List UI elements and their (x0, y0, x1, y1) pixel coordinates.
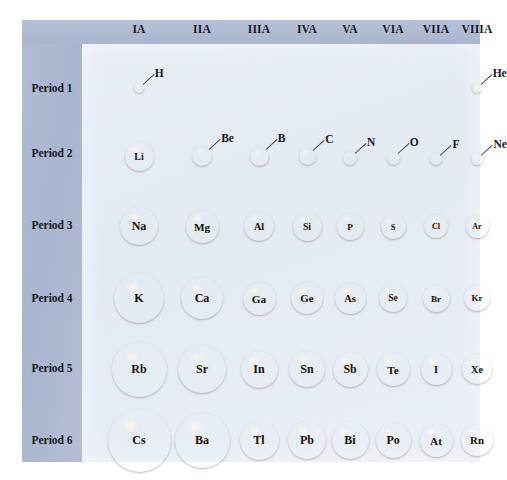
symbol-o: O (410, 136, 419, 148)
atom-sb: Sb (333, 352, 368, 387)
symbol-ne: Ne (493, 138, 506, 150)
symbol-mg: Mg (194, 220, 210, 232)
symbol-ga: Ga (252, 292, 266, 304)
symbol-as: As (344, 293, 356, 304)
symbol-sr: Sr (196, 362, 208, 377)
atom-xe: Xe (462, 354, 492, 384)
symbol-te: Te (387, 363, 398, 375)
atom-at: At (420, 424, 453, 457)
symbol-tl: Tl (253, 433, 264, 448)
atom-sn: Sn (289, 351, 325, 387)
atom-cl: Cl (424, 214, 448, 238)
atom-i: I (421, 354, 452, 385)
symbol-se: Se (388, 293, 398, 303)
symbol-cl: Cl (432, 222, 440, 231)
symbol-s: S (391, 221, 396, 231)
atom-p: P (337, 213, 364, 240)
group-header-via: VIA (382, 23, 404, 35)
atom-rn: Rn (461, 424, 493, 456)
period-label-2: Period 2 (31, 147, 72, 159)
atom-sr: Sr (178, 345, 226, 393)
period-label-1: Period 1 (31, 82, 72, 94)
symbol-ge: Ge (300, 292, 313, 304)
atom-ar: Ar (466, 215, 489, 238)
symbol-sb: Sb (343, 362, 356, 377)
symbol-ca: Ca (195, 291, 210, 306)
symbol-be: Be (221, 132, 234, 144)
symbol-br: Br (431, 293, 441, 303)
diagram-panel (82, 44, 480, 462)
symbol-pb: Pb (300, 433, 314, 448)
group-header-ia: IA (132, 23, 145, 35)
leader-line-he (480, 75, 492, 86)
atom-mg: Mg (186, 210, 219, 243)
atom-kr: Kr (464, 285, 490, 311)
symbol-p: P (347, 221, 353, 231)
atom-as: As (335, 283, 366, 314)
group-header-viiia: VIIIA (461, 23, 492, 35)
atom-ca: Ca (181, 277, 223, 319)
atom-se: Se (379, 284, 407, 312)
atom-tl: Tl (240, 421, 279, 460)
period-label-3: Period 3 (31, 219, 72, 231)
atom-cs: Cs (108, 409, 171, 472)
symbol-li: Li (134, 151, 143, 162)
symbol-k: K (134, 291, 143, 306)
symbol-n: N (367, 136, 375, 148)
symbol-c: C (325, 133, 333, 145)
period-label-6: Period 6 (31, 434, 72, 446)
symbol-po: Po (386, 433, 399, 448)
symbol-at: At (430, 434, 442, 446)
symbol-sn: Sn (300, 362, 313, 377)
atom-br: Br (423, 285, 450, 312)
symbol-b: B (278, 132, 286, 144)
period-label-4: Period 4 (31, 292, 72, 304)
symbol-h: H (155, 67, 164, 79)
atom-si: Si (293, 212, 322, 241)
group-header-viia: VIIA (423, 23, 449, 35)
atom-na: Na (120, 207, 158, 245)
period-label-5: Period 5 (31, 362, 72, 374)
atom-k: K (114, 273, 164, 323)
symbol-si: Si (303, 221, 311, 232)
group-header-iva: IVA (297, 23, 317, 35)
symbol-cs: Cs (132, 433, 145, 448)
symbol-rn: Rn (470, 434, 484, 446)
symbol-in: In (253, 362, 264, 377)
atom-po: Po (376, 423, 411, 458)
atom-ba: Ba (175, 413, 230, 468)
symbol-al: Al (254, 221, 264, 232)
symbol-rb: Rb (131, 362, 146, 377)
atom-li: Li (125, 142, 154, 171)
atom-in: In (241, 351, 278, 388)
atom-ga: Ga (243, 282, 276, 315)
atomic-radii-diagram: IAIIAIIIAIVAVAVIAVIIAVIIIA Period 1Perio… (22, 20, 480, 462)
symbol-na: Na (132, 219, 147, 234)
symbol-xe: Xe (471, 364, 483, 375)
symbol-i: I (434, 364, 438, 375)
atom-al: Al (244, 211, 274, 241)
symbol-ba: Ba (195, 433, 209, 448)
symbol-bi: Bi (344, 433, 355, 448)
symbol-f: F (452, 138, 459, 150)
atom-pb: Pb (288, 421, 326, 459)
symbol-he: He (493, 67, 507, 79)
leader-line-ne (481, 145, 493, 156)
atom-rb: Rb (112, 342, 167, 397)
symbol-kr: Kr (472, 293, 483, 303)
atom-te: Te (377, 353, 410, 386)
group-header-va: VA (342, 23, 358, 35)
atom-ge: Ge (291, 282, 323, 314)
symbol-ar: Ar (472, 222, 481, 231)
group-header-iia: IIA (193, 23, 211, 35)
atom-s: S (381, 214, 406, 239)
atom-bi: Bi (332, 422, 369, 459)
group-header-iiia: IIIA (248, 23, 271, 35)
